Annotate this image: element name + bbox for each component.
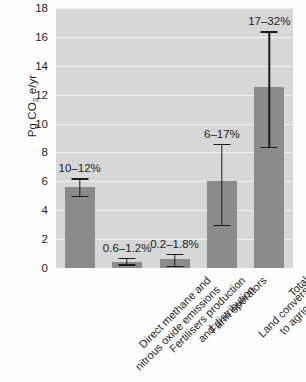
error-bar-cap-bottom xyxy=(119,264,136,265)
y-axis-tick-label: 12 xyxy=(35,89,48,101)
y-axis-tick-label: 4 xyxy=(42,204,48,216)
x-axis-categories: Direct methane andnitrous oxide emission… xyxy=(0,268,306,382)
bar[interactable] xyxy=(65,187,95,268)
bar-value-annotation: 0.6–1.2% xyxy=(103,242,152,254)
y-axis-tick-label: 16 xyxy=(35,31,48,43)
plot-area: 10–12%0.6–1.2%0.2–1.8%6–17%17–32% xyxy=(56,8,293,268)
error-bar-line xyxy=(174,254,175,266)
gridline xyxy=(56,37,293,38)
bar-value-annotation: 6–17% xyxy=(204,128,240,140)
error-bar-cap-top xyxy=(71,178,88,179)
error-bar-cap-top xyxy=(119,258,136,259)
error-bar-line xyxy=(221,144,222,225)
error-bar-cap-top xyxy=(166,254,183,255)
error-bar-cap-bottom xyxy=(166,266,183,267)
y-axis-tick-label: 14 xyxy=(35,60,48,72)
error-bar-line xyxy=(269,31,270,147)
error-bar-cap-bottom xyxy=(71,196,88,197)
y-axis-tick-label: 10 xyxy=(35,118,48,130)
gridline xyxy=(56,8,293,9)
y-axis-tick-label: 8 xyxy=(42,146,48,158)
gridline xyxy=(56,66,293,67)
error-bar-line xyxy=(79,178,80,195)
y-axis-tick-label: 18 xyxy=(35,2,48,14)
y-axis-tick-label: 6 xyxy=(42,175,48,187)
bar-value-annotation: 10–12% xyxy=(59,162,101,174)
error-bar-cap-bottom xyxy=(261,147,278,148)
bar-value-annotation: 0.2–1.8% xyxy=(150,238,199,250)
bar-value-annotation: 17–32% xyxy=(248,15,290,27)
chart-figure: Pg CO2 e/yr 024681012141618 10–12%0.6–1.… xyxy=(0,0,306,382)
error-bar-cap-bottom xyxy=(213,225,230,226)
error-bar-cap-top xyxy=(213,144,230,145)
y-axis-tick-label: 2 xyxy=(42,233,48,245)
error-bar-cap-top xyxy=(261,31,278,32)
y-axis-ticks: 024681012141618 xyxy=(0,8,52,268)
